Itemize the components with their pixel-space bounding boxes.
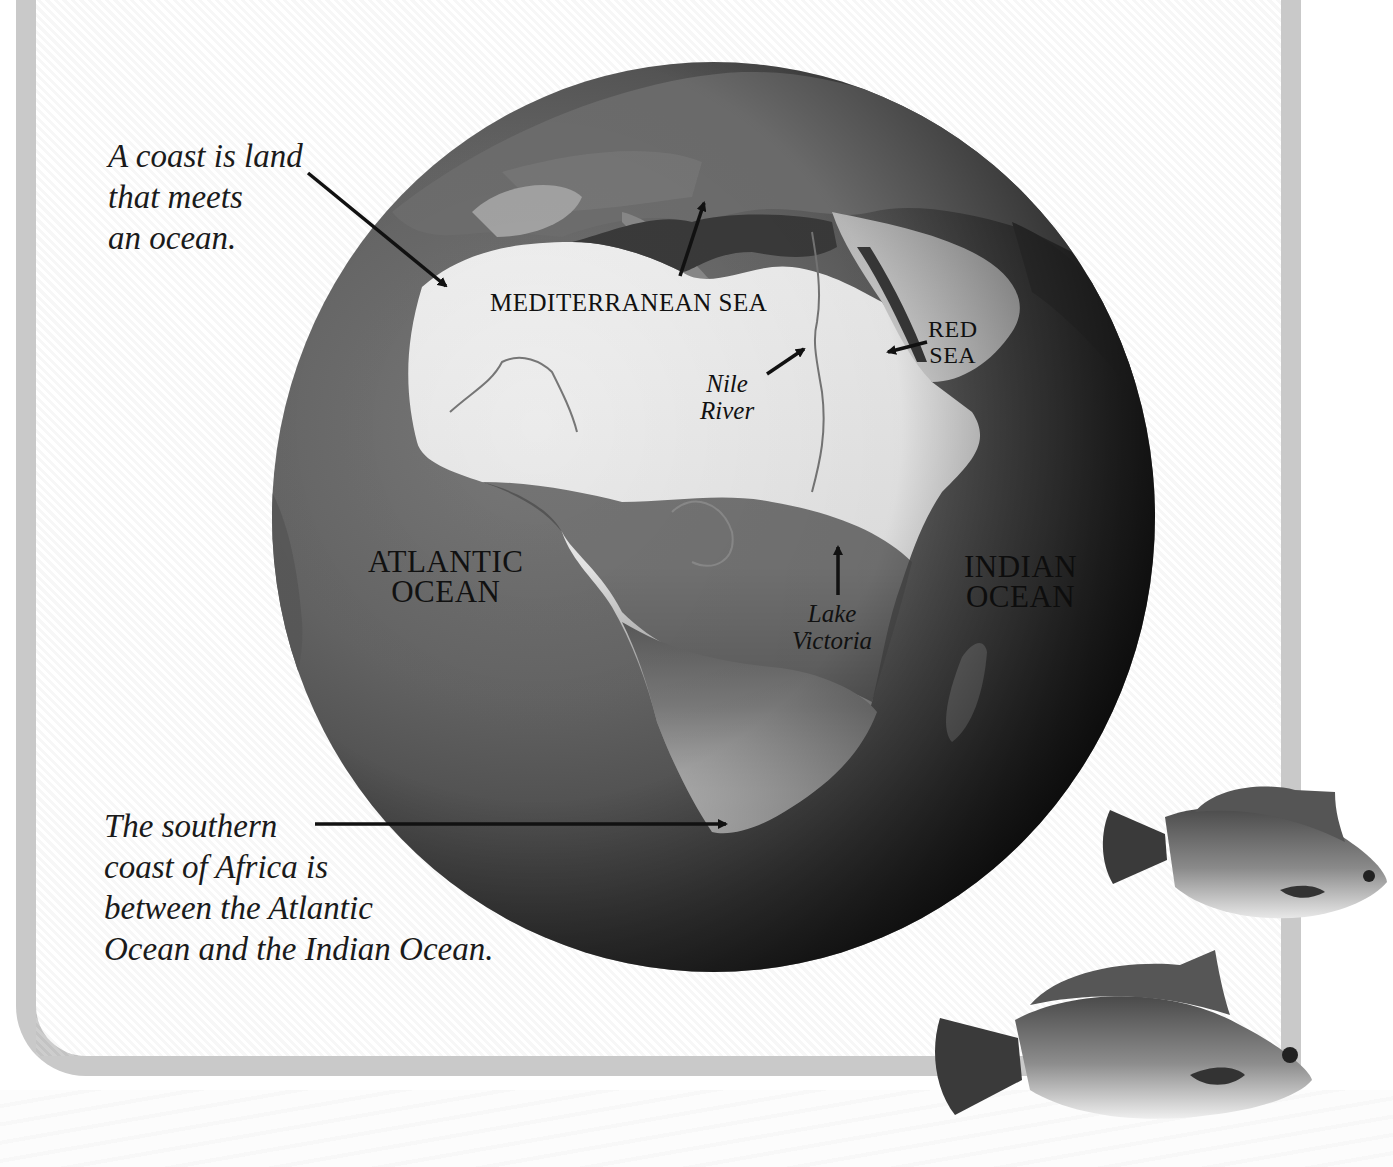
fish-lower-icon <box>930 930 1318 1140</box>
caption-coast-line-3: an ocean. <box>108 218 303 259</box>
label-red-sea-line-1: RED <box>928 316 978 342</box>
label-nile-line-2: River <box>700 397 754 424</box>
label-lake-victoria: Lake Victoria <box>792 600 872 654</box>
label-indian-line-1: INDIAN <box>964 552 1077 582</box>
caption-southern-line-2: coast of Africa is <box>104 847 493 888</box>
label-red-sea: RED SEA <box>928 316 978 368</box>
label-atlantic-ocean: ATLANTIC OCEAN <box>368 547 524 607</box>
caption-coast-definition: A coast is land that meets an ocean. <box>108 136 303 259</box>
label-lake-line-2: Victoria <box>792 627 872 654</box>
label-indian-ocean: INDIAN OCEAN <box>964 552 1077 612</box>
label-mediterranean-sea-text: MEDITERRANEAN SEA <box>490 289 767 316</box>
fish-upper-icon <box>1095 772 1393 932</box>
caption-southern-line-4: Ocean and the Indian Ocean. <box>104 929 493 970</box>
label-atlantic-line-1: ATLANTIC <box>368 547 524 577</box>
label-nile-river: Nile River <box>700 370 754 424</box>
label-nile-line-1: Nile <box>700 370 754 397</box>
caption-coast-line-2: that meets <box>108 177 303 218</box>
label-atlantic-line-2: OCEAN <box>368 577 524 607</box>
caption-southern-line-1: The southern <box>104 806 493 847</box>
label-mediterranean-sea: MEDITERRANEAN SEA <box>490 288 767 318</box>
label-red-sea-line-2: SEA <box>928 342 978 368</box>
label-lake-line-1: Lake <box>792 600 872 627</box>
caption-southern-coast: The southern coast of Africa is between … <box>104 806 493 970</box>
label-indian-line-2: OCEAN <box>964 582 1077 612</box>
caption-coast-line-1: A coast is land <box>108 136 303 177</box>
caption-southern-line-3: between the Atlantic <box>104 888 493 929</box>
